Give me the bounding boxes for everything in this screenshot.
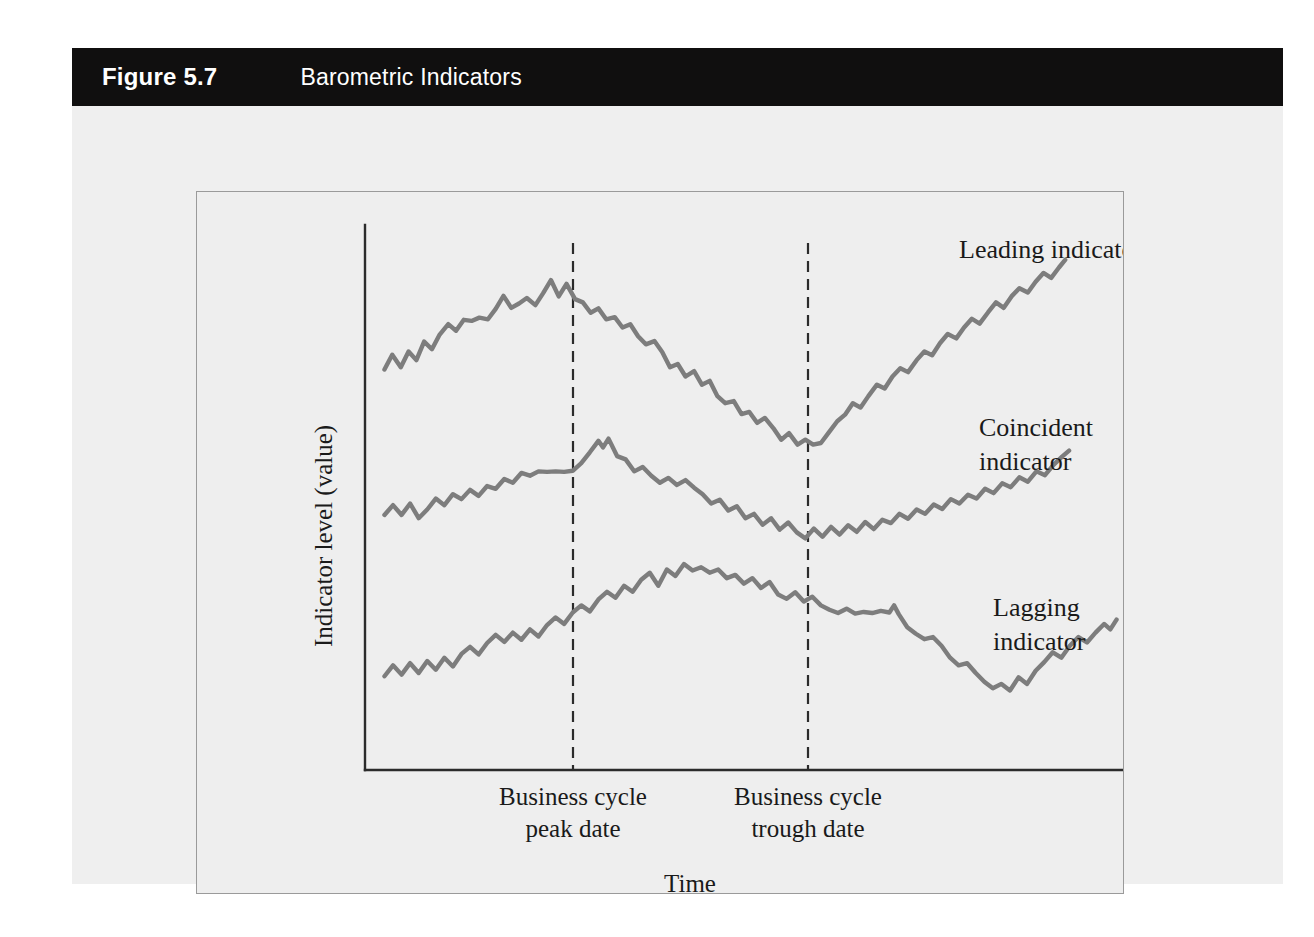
series-label-coincident-indicator-line1: Coincident <box>979 413 1094 442</box>
series-label-lagging-indicator-line2: indicator <box>993 627 1086 656</box>
figure-number-label: Figure 5.7 <box>102 63 217 91</box>
barometric-indicators-chart: Leading indicator Coincident indicator L… <box>197 192 1123 893</box>
series-label-lagging-indicator-line1: Lagging <box>993 593 1080 622</box>
series-label-coincident-indicator-line2: indicator <box>979 447 1072 476</box>
y-axis-title: Indicator level (value) <box>310 425 338 647</box>
series-line-coincident-indicator <box>384 439 1069 539</box>
figure-title-label: Barometric Indicators <box>300 64 522 91</box>
trough-date-label-line1: Business cycle <box>734 783 882 810</box>
chart-plot-panel: Leading indicator Coincident indicator L… <box>196 191 1124 894</box>
peak-date-label-line1: Business cycle <box>499 783 647 810</box>
x-axis-title: Time <box>664 870 716 893</box>
series-label-leading-indicator: Leading indicator <box>959 235 1123 264</box>
figure-header-bar: Figure 5.7 Barometric Indicators <box>72 48 1283 106</box>
series-line-leading-indicator <box>384 260 1065 445</box>
trough-date-label-line2: trough date <box>751 815 864 842</box>
peak-date-label-line2: peak date <box>525 815 620 842</box>
figure-card: Figure 5.7 Barometric Indicators Leading… <box>72 48 1283 884</box>
figure-body: Leading indicator Coincident indicator L… <box>72 106 1283 884</box>
